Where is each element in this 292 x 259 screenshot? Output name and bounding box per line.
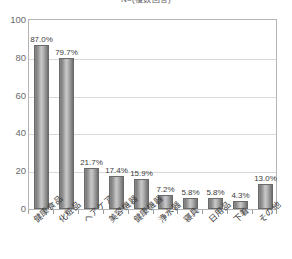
bar [59,58,74,209]
bar-value-label: 4.3% [231,192,249,200]
bar-value-label: 15.9% [130,170,153,178]
x-axis-tick [28,210,29,214]
x-axis-tick [276,210,277,214]
x-axis-tick [227,210,228,214]
y-axis-tick-label: 60 [2,91,26,101]
bar-value-label: 87.0% [30,36,53,44]
y-axis-tick-label: 20 [2,166,26,176]
bar-value-label: 21.7% [80,159,103,167]
y-axis: 020406080100 [0,19,26,210]
x-axis-tick [153,210,154,214]
y-axis-tick-label: 0 [2,204,26,214]
bar-value-label: 5.8% [206,189,224,197]
x-axis-tick [128,210,129,214]
bar-fill [34,45,49,209]
x-axis-tick [177,210,178,214]
x-axis-tick [53,210,54,214]
x-axis-tick [103,210,104,214]
bar-value-label: 17.4% [105,167,128,175]
x-axis-tick [78,210,79,214]
bar-value-label: 5.8% [181,189,199,197]
y-axis-tick-label: 40 [2,129,26,139]
x-axis-tick [252,210,253,214]
bar [34,45,49,209]
bar-fill [59,58,74,209]
plot-area: 87.0%79.7%21.7%17.4%15.9%7.2%5.8%5.8%4.3… [28,19,277,210]
bar-value-label: 79.7% [55,49,78,57]
bar-value-label: 7.2% [156,186,174,194]
y-axis-tick-label: 80 [2,53,26,63]
x-axis-tick [202,210,203,214]
bar-chart: N=(複数回答) 020406080100 87.0%79.7%21.7%17.… [0,0,292,259]
chart-title: N=(複数回答) [0,0,292,4]
y-axis-tick-label: 100 [2,15,26,25]
bar-value-label: 13.0% [254,175,277,183]
